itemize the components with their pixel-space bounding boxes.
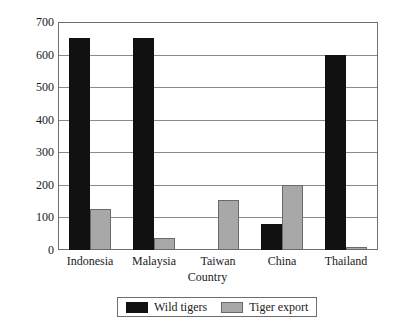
chart-legend: Wild tigersTiger export <box>117 297 317 317</box>
x-tick-label-thailand: Thailand <box>314 254 378 269</box>
x-axis-title: Country <box>0 270 415 285</box>
legend-label: Wild tigers <box>154 300 207 315</box>
y-tick-label-700: 700 <box>20 16 54 28</box>
legend-item-wild-tigers[interactable]: Wild tigers <box>126 300 207 315</box>
legend-label: Tiger export <box>249 300 308 315</box>
legend-swatch-wild-tigers-icon <box>126 302 148 313</box>
bar-china-tiger-export <box>282 185 303 250</box>
y-tick-label-0: 0 <box>20 244 54 256</box>
tiger-numbers-bar-chart: Tiger numbers 0100200300400500600700 Ind… <box>0 0 415 331</box>
bar-malaysia-tiger-export <box>154 238 175 250</box>
legend-swatch-tiger-export-icon <box>221 302 243 313</box>
y-tick-label-500: 500 <box>20 81 54 93</box>
bars-layer <box>58 22 378 250</box>
x-tick-label-indonesia: Indonesia <box>58 254 122 269</box>
x-tick-label-taiwan: Taiwan <box>186 254 250 269</box>
x-tick-label-china: China <box>250 254 314 269</box>
bar-group-thailand <box>314 22 378 250</box>
bar-china-wild-tigers <box>261 224 282 250</box>
bar-thailand-wild-tigers <box>325 55 346 250</box>
bar-indonesia-wild-tigers <box>69 38 90 250</box>
x-tick-label-malaysia: Malaysia <box>122 254 186 269</box>
bar-thailand-tiger-export <box>346 247 367 250</box>
bar-taiwan-tiger-export <box>218 200 239 250</box>
y-tick-label-300: 300 <box>20 146 54 158</box>
bar-malaysia-wild-tigers <box>133 38 154 250</box>
y-tick-label-600: 600 <box>20 49 54 61</box>
bar-group-malaysia <box>122 22 186 250</box>
bar-group-china <box>250 22 314 250</box>
y-tick-label-200: 200 <box>20 179 54 191</box>
y-tick-label-400: 400 <box>20 114 54 126</box>
bar-group-taiwan <box>186 22 250 250</box>
bar-indonesia-tiger-export <box>90 209 111 250</box>
y-tick-label-100: 100 <box>20 211 54 223</box>
legend-item-tiger-export[interactable]: Tiger export <box>221 300 308 315</box>
bar-group-indonesia <box>58 22 122 250</box>
